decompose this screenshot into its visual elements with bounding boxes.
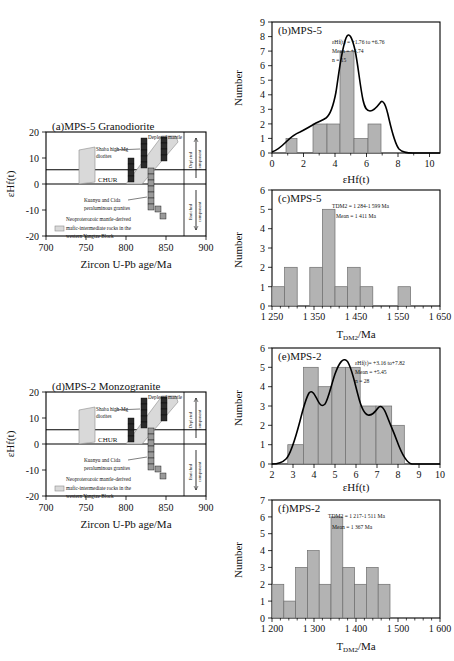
panel-c-xtick-3: 1 550: [387, 311, 410, 322]
panel-b-ytick-8: 8: [260, 31, 265, 42]
panel-e-plot-area: εHf(t)= +3.16 to+7.82 Mean = +5.45 n = 2…: [272, 348, 440, 464]
panel-a-enriched-label: Enriched: [188, 203, 193, 220]
panel-f-ytick-4: 4: [260, 545, 265, 556]
panel-d-title: (d)MPS-2 Monzogranite: [52, 380, 161, 393]
panel-d-depleted-mantle-label: Depleted mantle: [148, 394, 183, 400]
panel-c-tdm2-histogram: TDM2 = 1 284-1 599 Ma Mean = 1 411 Ma (c…: [228, 178, 454, 343]
panel-b-ytick-9: 9: [260, 17, 265, 28]
panel-e-ytick-1: 1: [260, 439, 265, 450]
panel-d-legend-line2: mafic-intermediate rocks in the: [66, 485, 132, 491]
panel-b-ytick-2: 2: [260, 119, 265, 130]
panel-f-ytick-3: 3: [260, 562, 265, 573]
panel-a-xtick-4: 900: [199, 242, 214, 253]
panel-d-diorites-label-2: diorites: [96, 413, 112, 419]
panel-d-granites-label-2: peraluminous granites: [84, 465, 130, 471]
panel-e-xtick-7: 9: [417, 469, 422, 480]
panel-e-xtick-3: 5: [333, 469, 338, 480]
panel-a-hf-vs-age: Depleted Enriched component component: [0, 118, 232, 278]
panel-f-ylabel: Number: [232, 542, 244, 578]
panel-d-plot-area: Depleted Enriched component component: [46, 380, 206, 499]
panel-b-ytick-7: 7: [260, 46, 265, 57]
panel-a-legend-line2: mafic-intermediate rocks in the: [66, 225, 132, 231]
panel-d-ytick-4: -20: [26, 491, 39, 502]
panel-d-component-label-2: component: [197, 461, 202, 482]
panel-f-ytick-0: 0: [260, 613, 265, 624]
panel-c-xtick-4: 1 650: [429, 311, 452, 322]
panel-f-ytick-7: 7: [260, 495, 265, 506]
panel-d-outlier-square: [160, 473, 166, 479]
panel-e-xtick-0: 2: [270, 469, 275, 480]
panel-f-xtick-4: 1 600: [429, 623, 452, 634]
panel-c-anno-2: Mean = 1 411 Ma: [336, 213, 376, 219]
panel-f-ytick-2: 2: [260, 579, 265, 590]
panel-d-granites-label-1: Kuanyu and Cida: [84, 457, 121, 463]
panel-c-bars: [272, 209, 411, 306]
panel-d-legend-line1: Neoproterozoic mantle-derived: [66, 476, 131, 482]
panel-c-ytick-0: 0: [260, 301, 265, 312]
panel-b-ytick-1: 1: [260, 133, 265, 144]
panel-c-annotation: TDM2 = 1 284-1 599 Ma Mean = 1 411 Ma: [332, 203, 390, 219]
panel-a-depleted-label: Depleted: [188, 151, 193, 168]
panel-a-ytick-4: -20: [26, 231, 39, 242]
panel-b-xtick-1: 2: [301, 158, 306, 169]
panel-b-ytick-5: 5: [260, 75, 265, 86]
panel-a-component-label-2: component: [197, 201, 202, 222]
panel-e-anno-1: εHf(t)= +3.16 to+7.82: [355, 360, 405, 367]
panel-a-legend-line1: Neoproterozoic mantle-derived: [66, 216, 131, 222]
panel-c-ytick-4: 4: [260, 223, 265, 234]
panel-f-xtick-2: 1 400: [345, 623, 368, 634]
panel-b-title: (b)MPS-5: [278, 24, 323, 37]
panel-e-ytick-4: 4: [260, 381, 265, 392]
panel-b-xtick-5: 10: [425, 158, 435, 169]
panel-c-xtick-2: 1 450: [345, 311, 368, 322]
panel-c-ytick-2: 2: [260, 262, 265, 273]
panel-c-ytick-1: 1: [260, 282, 265, 293]
panel-e-xtick-4: 6: [354, 469, 359, 480]
panel-f-ytick-5: 5: [260, 528, 265, 539]
panel-a-granites-label-1: Kuanyu and Cida: [84, 197, 121, 203]
panel-a-ylabel: εHf(t): [4, 170, 17, 197]
panel-a-outlier-square: [160, 213, 166, 219]
panel-a-legend-line3: western Yangtze Block: [66, 233, 114, 239]
panel-a-plot-area: Depleted Enriched component component: [46, 120, 206, 239]
panel-d-xtick-4: 900: [199, 502, 214, 513]
panel-e-xtick-8: 10: [435, 469, 445, 480]
panel-c-xtick-1: 1 350: [303, 311, 326, 322]
panel-a-diorites-label-2: diorites: [96, 153, 112, 159]
panel-d-xtick-2: 800: [119, 502, 134, 513]
panel-f-anno-1: TDM2 = 1 217-1 511 Ma: [328, 513, 385, 519]
panel-c-ytick-5: 5: [260, 204, 265, 215]
panel-b-ytick-4: 4: [260, 89, 265, 100]
panel-b-xtick-3: 6: [364, 158, 369, 169]
panel-b-ytick-0: 0: [260, 148, 265, 159]
panel-e-xtick-2: 4: [312, 469, 317, 480]
panel-b-xtick-0: 0: [270, 158, 275, 169]
panel-a-xtick-1: 750: [79, 242, 94, 253]
panel-f-xtick-0: 1 200: [261, 623, 284, 634]
panel-b-anno-3: n = 15: [332, 57, 347, 63]
panel-a-granites-label-2: peraluminous granites: [84, 205, 130, 211]
panel-e-ylabel: Number: [232, 390, 244, 426]
panel-f-bars: [272, 517, 390, 618]
panel-e-anno-3: n = 28: [355, 378, 370, 384]
panel-d-xtick-0: 700: [39, 502, 54, 513]
panel-c-title: (c)MPS-5: [278, 192, 322, 205]
panel-d-chur-label: CHUR: [98, 436, 118, 444]
panel-a-xtick-2: 800: [119, 242, 134, 253]
panel-d-diorites-label: Shaba high-Mg: [96, 406, 129, 412]
panel-b-plot-area: εHf(t) = +1.76 to +6.76 Mean = +4.74 n =…: [272, 22, 440, 153]
panel-f-anno-2: Mean = 1 367 Ma: [332, 524, 373, 530]
panel-c-ytick-6: 6: [260, 185, 265, 196]
panel-a-ytick-0: 20: [29, 127, 39, 138]
panel-c-ylabel: Number: [232, 232, 244, 268]
panel-b-ehf-histogram: εHf(t) = +1.76 to +6.76 Mean = +4.74 n =…: [228, 8, 454, 188]
panel-d-ytick-2: 0: [34, 439, 39, 450]
panel-c-plot-area: TDM2 = 1 284-1 599 Ma Mean = 1 411 Ma (c…: [272, 190, 440, 306]
panel-c-ytick-3: 3: [260, 243, 265, 254]
panel-a-ytick-3: -10: [26, 205, 39, 216]
panel-f-tdm2-histogram: TDM2 = 1 217-1 511 Ma Mean = 1 367 Ma (f…: [228, 488, 454, 661]
panel-a-title: (a)MPS-5 Granodiorite: [52, 120, 154, 133]
panel-e-xtick-6: 8: [396, 469, 401, 480]
panel-b-xtick-4: 8: [396, 158, 401, 169]
panel-b-annotation: εHf(t) = +1.76 to +6.76 Mean = +4.74 n =…: [332, 39, 385, 63]
